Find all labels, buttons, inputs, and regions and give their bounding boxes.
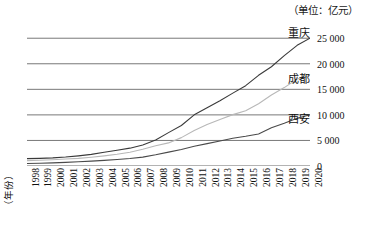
x-tick-label: 2001 [69, 168, 79, 187]
unit-annotation: （单位：亿元） [288, 2, 358, 17]
y-tick-label: 25 000 [317, 33, 345, 44]
x-tick-label: 2011 [198, 168, 208, 187]
series-line-1 [27, 75, 310, 160]
x-axis-tick-labels: 1998199920002001200220032004200520062007… [27, 168, 310, 226]
x-tick-label: 1999 [43, 168, 53, 187]
y-tick-label: 10 000 [317, 109, 345, 120]
x-axis-title: （年份） [1, 170, 15, 210]
x-tick-label: 2013 [223, 168, 233, 187]
series-label-chongqing: 重庆 [288, 24, 310, 40]
x-tick-label: 2004 [108, 168, 118, 187]
chart-figure: （单位：亿元） 05 00010 00015 00020 00025 000 重… [0, 0, 374, 227]
x-tick-label: 2010 [185, 168, 195, 187]
x-tick-label: 2015 [249, 168, 259, 187]
x-tick-label: 2000 [56, 168, 66, 187]
x-tick-label: 2017 [275, 168, 285, 187]
plot-area [27, 28, 310, 166]
x-tick-label: 2019 [301, 168, 311, 187]
x-tick-label: 2012 [211, 168, 221, 187]
x-tick-label: 1998 [31, 168, 41, 187]
line-chart-svg [27, 28, 310, 166]
series-paths [27, 38, 310, 163]
x-tick-label: 2007 [146, 168, 156, 187]
x-tick-label: 2008 [159, 168, 169, 187]
x-tick-label: 2002 [82, 168, 92, 187]
x-tick-label: 2006 [133, 168, 143, 187]
y-tick-label: 20 000 [317, 58, 345, 69]
series-label-chengdu: 成都 [288, 70, 310, 86]
x-tick-label: 2003 [95, 168, 105, 187]
x-tick-label: 2014 [236, 168, 246, 187]
x-tick-label: 2020 [314, 168, 324, 187]
y-tick-label: 15 000 [317, 84, 345, 95]
x-tick-label: 2009 [172, 168, 182, 187]
gridlines [27, 38, 310, 166]
x-tick-label: 2018 [288, 168, 298, 187]
y-tick-label: 5 000 [317, 135, 340, 146]
series-label-xian: 西安 [288, 110, 310, 126]
x-tick-label: 2005 [121, 168, 131, 187]
x-tick-label: 2016 [262, 168, 272, 187]
